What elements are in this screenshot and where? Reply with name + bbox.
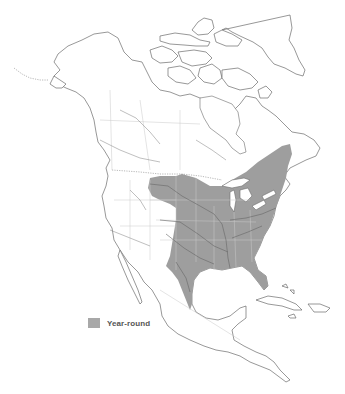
north-america-range-map [0,0,345,394]
legend: Year-round [88,318,150,328]
legend-label-year-round: Year-round [107,319,150,328]
aleutian-islands [14,68,48,80]
legend-swatch-year-round [88,318,100,328]
caribbean-islands [256,284,330,318]
